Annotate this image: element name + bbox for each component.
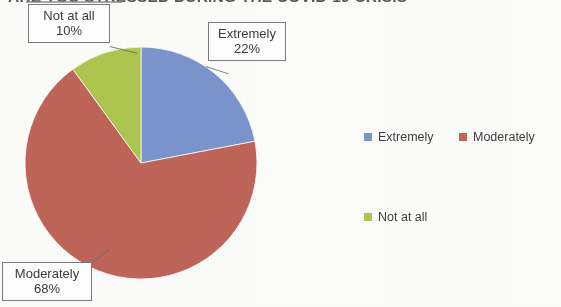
legend-label: Extremely bbox=[378, 130, 434, 144]
data-label-name: Not at all bbox=[35, 8, 103, 23]
pie-slice-group bbox=[25, 47, 257, 279]
chart-legend: Extremely Moderately Not at all bbox=[364, 126, 560, 234]
chart-canvas: ARE YOU STRESSED DURING THE COVID-19 CRI… bbox=[0, 0, 561, 307]
legend-swatch-icon bbox=[459, 133, 467, 141]
data-label-value: 22% bbox=[215, 41, 279, 56]
legend-item-not-at-all: Not at all bbox=[364, 210, 427, 224]
data-label-value: 68% bbox=[9, 281, 85, 296]
legend-swatch-icon bbox=[364, 213, 372, 221]
data-label-name: Extremely bbox=[215, 26, 279, 41]
data-label-moderately: Moderately 68% bbox=[2, 262, 92, 301]
legend-swatch-icon bbox=[364, 133, 372, 141]
data-label-value: 10% bbox=[35, 23, 103, 38]
pie-chart-svg bbox=[24, 46, 258, 280]
data-label-extremely: Extremely 22% bbox=[208, 22, 286, 61]
title-underline bbox=[26, 1, 122, 3]
legend-label: Moderately bbox=[473, 130, 535, 144]
pie-chart bbox=[24, 46, 258, 280]
data-label-not-at-all: Not at all 10% bbox=[28, 4, 110, 43]
legend-label: Not at all bbox=[378, 210, 427, 224]
legend-item-extremely: Extremely bbox=[364, 130, 434, 144]
data-label-name: Moderately bbox=[9, 266, 85, 281]
legend-item-moderately: Moderately bbox=[459, 130, 535, 144]
